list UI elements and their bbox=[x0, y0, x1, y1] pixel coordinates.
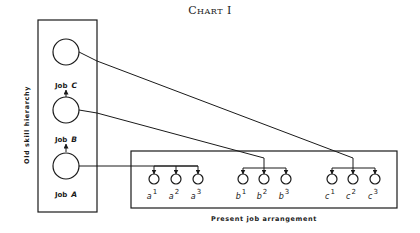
old-hierarchy-label: Old skill hierarchy bbox=[23, 86, 31, 164]
job-c1-label: c1 bbox=[325, 188, 335, 201]
job-b2-node bbox=[259, 174, 269, 184]
chart-title: Chart I bbox=[188, 4, 232, 17]
job-a1-label: a1 bbox=[147, 188, 157, 201]
group-c: c1 c2 c3 bbox=[325, 168, 380, 201]
job-c-node bbox=[53, 39, 79, 65]
job-b1-node bbox=[238, 174, 248, 184]
job-a2-label: a2 bbox=[169, 188, 179, 201]
job-b-label: JobB bbox=[54, 135, 77, 144]
job-a1-node bbox=[149, 174, 159, 184]
job-c3-label: c3 bbox=[368, 188, 378, 201]
job-a3-label: a3 bbox=[191, 188, 201, 201]
diagram-canvas: Chart I Old skill hierarchy JobC JobB Jo… bbox=[0, 0, 420, 233]
job-a-label: JobA bbox=[54, 190, 77, 199]
job-b3-node bbox=[281, 174, 291, 184]
job-a2-node bbox=[171, 174, 181, 184]
job-b-node bbox=[53, 97, 79, 123]
old-hierarchy-box bbox=[38, 20, 97, 212]
connector-b bbox=[79, 110, 264, 168]
job-a-node bbox=[53, 153, 79, 179]
present-arrangement-label: Present job arrangement bbox=[211, 215, 317, 223]
job-a3-node bbox=[193, 174, 203, 184]
job-b1-label: b1 bbox=[236, 188, 247, 201]
job-c2-node bbox=[348, 174, 358, 184]
job-c1-node bbox=[327, 174, 337, 184]
group-a: a1 a2 a3 bbox=[147, 166, 203, 201]
job-c3-node bbox=[370, 174, 380, 184]
job-b2-label: b2 bbox=[257, 188, 268, 201]
job-c2-label: c2 bbox=[346, 188, 356, 201]
job-c-label: JobC bbox=[54, 81, 77, 90]
job-b3-label: b3 bbox=[279, 188, 290, 201]
group-b: b1 b2 b3 bbox=[236, 168, 291, 201]
